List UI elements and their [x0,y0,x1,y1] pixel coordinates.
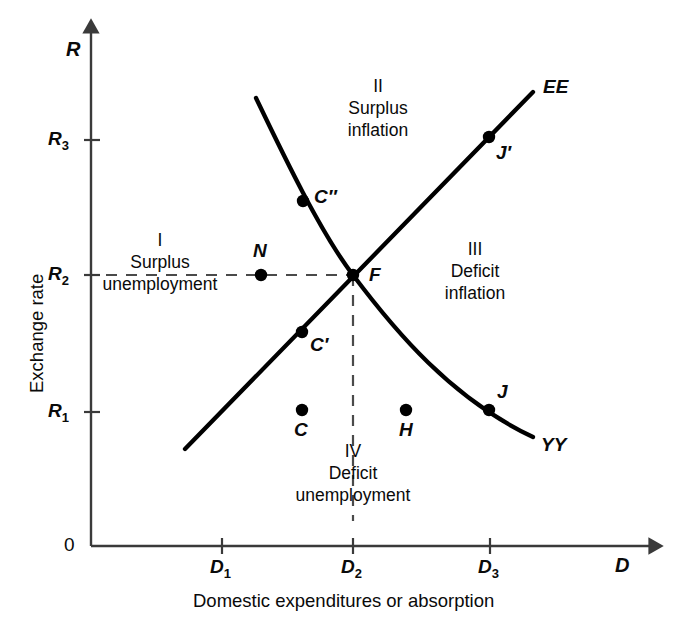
point-dot-j-prime [483,131,495,143]
y-tick-label-r2: R2 [48,263,69,288]
zone-iii-numeral: III [415,238,535,260]
point-dot-c [296,404,308,416]
x-tick-label-d3-sub: 3 [492,566,499,581]
point-label-j-prime: J′ [496,142,511,164]
zone-label-i: I Surplus unemployment [95,229,225,295]
point-label-c: C [294,419,308,441]
x-tick-label-d1: D1 [210,556,231,581]
origin-label: 0 [64,534,75,556]
zone-label-iii: III Deficit inflation [415,238,535,304]
zone-ii-line1: Surplus [318,97,438,119]
y-tick-label-r3: R3 [48,128,69,153]
diagram-canvas: R D 0 R3 R2 R1 D1 D2 D3 Exchange rate Do… [0,0,700,628]
zone-iii-line2: inflation [415,282,535,304]
zone-iv-line1: Deficit [283,462,423,484]
point-dot-n [255,269,267,281]
point-label-j: J [497,381,508,403]
curve-label-yy: YY [541,434,566,456]
x-tick-label-d2-base: D [341,556,355,577]
y-tick-label-r3-base: R [48,128,62,149]
point-label-n: N [253,240,267,262]
y-tick-label-r2-sub: 2 [62,273,69,288]
point-dot-c-dprime [297,195,309,207]
point-dot-j [483,404,495,416]
zone-ii-line2: inflation [318,119,438,141]
zone-iii-line1: Deficit [415,260,535,282]
zone-ii-numeral: II [318,75,438,97]
x-tick-label-d1-base: D [210,556,224,577]
y-tick-label-r1-base: R [48,400,62,421]
point-dot-h [400,404,412,416]
x-tick-label-d1-sub: 1 [224,566,231,581]
point-dot-f [347,269,359,281]
x-tick-label-d3: D3 [478,556,499,581]
zone-label-ii: II Surplus inflation [318,75,438,141]
y-tick-label-r3-sub: 3 [62,138,69,153]
point-label-f: F [369,264,381,286]
zone-iv-line2: unemployment [283,484,423,506]
zone-iv-numeral: IV [283,440,423,462]
x-axis-title: Domestic expenditures or absorption [193,590,494,612]
x-tick-label-d3-base: D [478,556,492,577]
y-tick-label-r1-sub: 1 [62,410,69,425]
y-tick-label-r1: R1 [48,400,69,425]
zone-i-numeral: I [95,229,225,251]
zone-i-line1: Surplus [95,251,225,273]
x-tick-label-d2: D2 [341,556,362,581]
zone-i-line2: unemployment [95,273,225,295]
curve-label-ee: EE [543,76,568,98]
point-label-c-prime: C′ [310,334,328,356]
x-axis-variable-label: D [615,554,629,577]
point-label-c-double-prime: C″ [314,186,337,208]
point-dot-c-prime [296,326,308,338]
y-axis-variable-label: R [66,38,80,61]
x-tick-label-d2-sub: 2 [355,566,362,581]
zone-label-iv: IV Deficit unemployment [283,440,423,506]
y-tick-label-r2-base: R [48,263,62,284]
point-label-h: H [399,419,413,441]
y-axis-title: Exchange rate [26,274,48,393]
